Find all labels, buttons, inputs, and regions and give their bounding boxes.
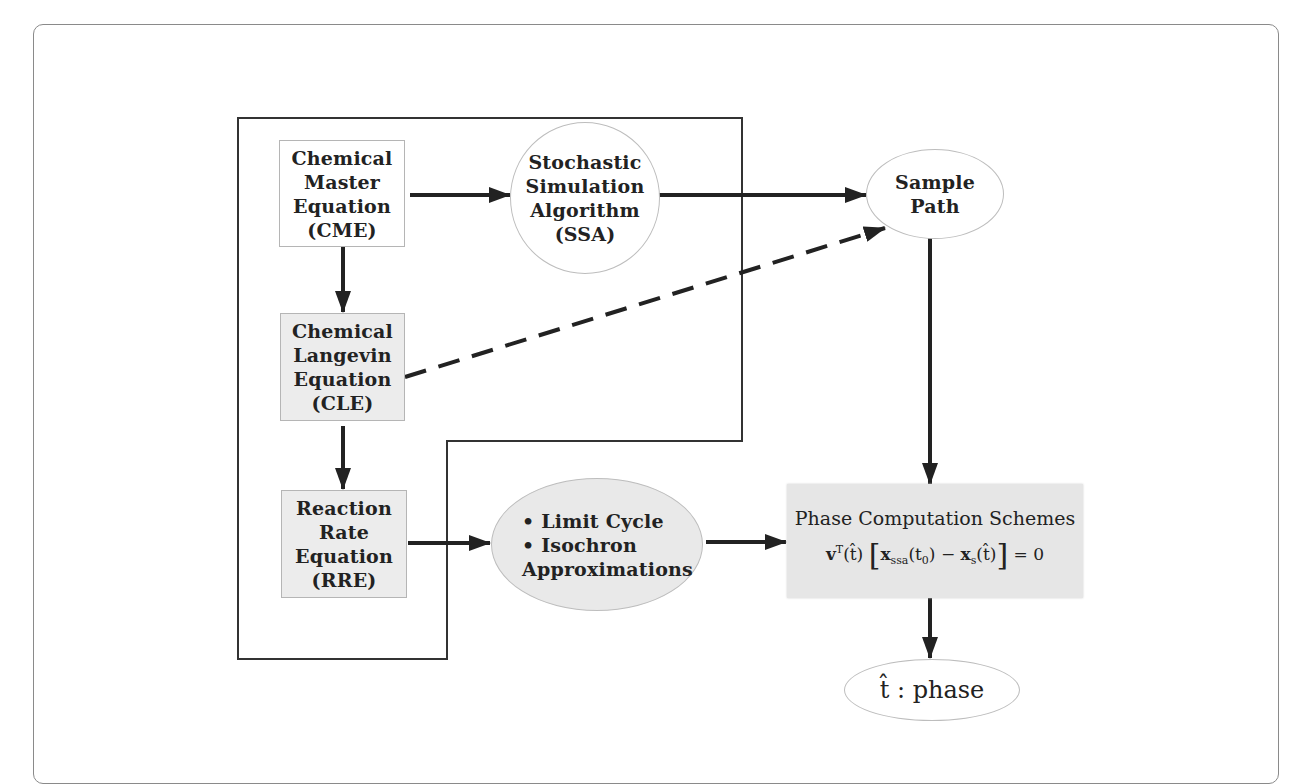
eq-xssa: x [880, 544, 890, 564]
node-sample-path: Sample Path [866, 149, 1004, 239]
eq-xs: x [961, 544, 971, 564]
node-cme-line-1: Chemical [291, 146, 392, 170]
node-rre-line-2: Rate [319, 520, 369, 544]
eq-that2: (t̂) [976, 544, 996, 564]
node-limit-cycle-line-1: • Limit Cycle [522, 509, 664, 533]
node-cme-line-4: (CME) [307, 218, 377, 242]
eq-xssa-sub: ssa [891, 555, 909, 568]
node-ssa-line-1: Stochastic [528, 150, 641, 174]
edge-cle-sample-dashed [405, 228, 885, 377]
output-symbol: t̂ [880, 676, 890, 704]
output-separator: : [889, 676, 912, 704]
eq-minus: − [936, 544, 961, 564]
node-cle-line-2: Langevin [293, 343, 392, 367]
node-output-phase: t̂ : phase [844, 659, 1020, 721]
node-sample-path-line-1: Sample [895, 170, 975, 194]
phase-title: Phase Computation Schemes [795, 505, 1075, 531]
eq-t0-sub: 0 [922, 555, 929, 568]
output-label: phase [913, 676, 985, 704]
node-ssa-line-2: Simulation [526, 174, 645, 198]
eq-rbracket: ] [996, 537, 1008, 572]
node-sample-path-line-2: Path [910, 194, 959, 218]
node-ssa: Stochastic Simulation Algorithm (SSA) [510, 122, 660, 274]
node-rre: Reaction Rate Equation (RRE) [281, 490, 407, 598]
eq-rhs: = 0 [1008, 544, 1044, 564]
node-ssa-line-3: Algorithm [530, 198, 640, 222]
phase-equation: vT(t̂) [xssa(t0) − xs(t̂)] = 0 [826, 535, 1044, 576]
node-limit-cycle-line-2: • Isochron [522, 533, 637, 557]
node-limit-cycle: • Limit Cycle • Isochron Approximations [491, 478, 703, 611]
node-cme-line-2: Master [304, 170, 380, 194]
eq-t0: (t [908, 544, 921, 564]
eq-v: v [826, 544, 836, 564]
node-rre-line-4: (RRE) [311, 568, 376, 592]
eq-that: (t̂) [843, 544, 863, 564]
node-cle-line-3: Equation [294, 367, 392, 391]
node-limit-cycle-line-3: Approximations [522, 557, 693, 581]
node-ssa-line-4: (SSA) [555, 222, 616, 246]
node-cle: Chemical Langevin Equation (CLE) [280, 313, 405, 421]
eq-t0-close: ) [929, 544, 936, 564]
node-cme-line-3: Equation [293, 194, 391, 218]
node-cle-line-1: Chemical [292, 319, 393, 343]
node-rre-line-1: Reaction [296, 496, 392, 520]
node-cle-line-4: (CLE) [312, 391, 374, 415]
node-phase-computation: Phase Computation Schemes vT(t̂) [xssa(t… [787, 484, 1083, 598]
node-rre-line-3: Equation [295, 544, 393, 568]
eq-lbracket: [ [869, 537, 881, 572]
node-cme: Chemical Master Equation (CME) [279, 140, 405, 247]
